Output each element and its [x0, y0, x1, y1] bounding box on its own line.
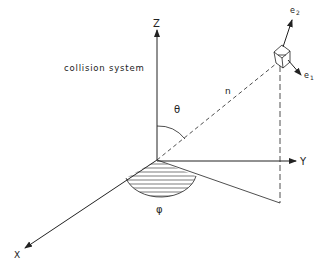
detector-cube [274, 45, 290, 68]
theta-arc [157, 126, 185, 139]
x-axis [25, 160, 157, 248]
y-axis-label: Y [299, 156, 307, 167]
collision-system-label: collision system [64, 63, 145, 73]
n-vector-label: n [225, 86, 231, 96]
phi-hatched-region [120, 164, 200, 200]
phi-label: φ [156, 204, 163, 215]
e2-label: e2 [290, 6, 300, 16]
z-axis-label: Z [153, 18, 160, 29]
e1-vector [288, 60, 301, 75]
e2-vector [283, 20, 292, 47]
projection-line [157, 160, 280, 203]
e1-label: e1 [304, 71, 314, 81]
x-axis-label: X [14, 250, 20, 260]
coordinate-diagram: Z Y X collision system n θ φ [0, 0, 319, 265]
theta-label: θ [174, 104, 180, 115]
